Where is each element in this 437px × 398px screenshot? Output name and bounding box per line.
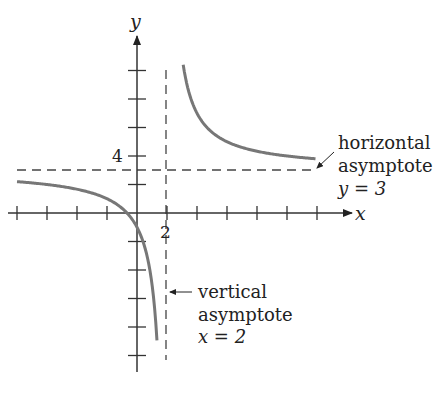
y-axis-label: y xyxy=(129,10,141,32)
curve-left-branch xyxy=(17,182,157,341)
x-axis xyxy=(8,206,352,220)
h-note-line3: y = 3 xyxy=(337,178,386,199)
vertical-asymptote-annotation: vertical asymptote x = 2 xyxy=(170,281,293,347)
x-tick-label-2: 2 xyxy=(160,222,171,242)
h-note-line2: asymptote xyxy=(338,155,433,176)
y-tick-label-4: 4 xyxy=(112,146,123,166)
h-note-line1: horizontal xyxy=(338,132,431,153)
v-note-line3: x = 2 xyxy=(198,326,246,347)
x-axis-label: x xyxy=(355,202,366,224)
curve-right-branch xyxy=(183,65,315,159)
horizontal-asymptote-annotation: horizontal asymptote y = 3 xyxy=(317,132,433,199)
graph-canvas: x y 2 4 horizontal asymptote y = 3 verti… xyxy=(0,0,437,398)
v-note-line1: vertical xyxy=(197,281,267,302)
v-note-line2: asymptote xyxy=(198,304,293,325)
y-axis xyxy=(128,36,146,372)
